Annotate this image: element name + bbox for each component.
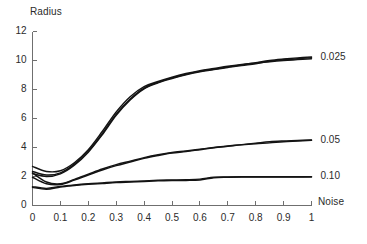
figure-caption (8, 231, 360, 243)
plot-area (0, 0, 367, 244)
data-curves (33, 57, 312, 189)
curve-0.025-c (33, 58, 312, 177)
curve-0.10-b (33, 177, 312, 189)
curve-0.025-a (33, 57, 312, 175)
chart-figure: Radius Noise 024681012 00.10.20.30.40.50… (0, 0, 367, 244)
curve-0.025-b (33, 59, 312, 172)
